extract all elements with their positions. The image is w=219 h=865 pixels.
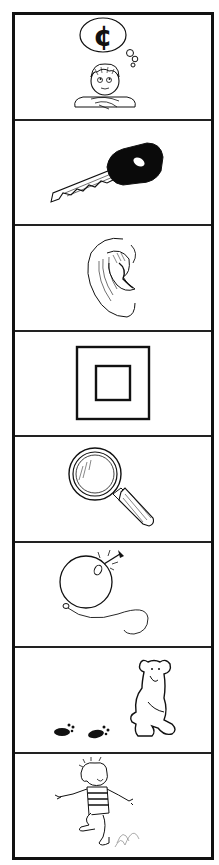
- jumping-girl-icon: [53, 757, 173, 853]
- panel-balloon: balloon with pin: [15, 541, 211, 647]
- panel-thinking-boy: boy thinking of cent ¢: [15, 15, 211, 119]
- picture-strip: boy thinking of cent ¢ key: [12, 12, 214, 860]
- balloon-pin-icon: [48, 548, 178, 640]
- key-icon: [43, 127, 183, 217]
- nested-square-icon: [75, 345, 151, 421]
- panel-magnifier: magnifying glass: [15, 435, 211, 541]
- magnifying-glass-icon: [63, 444, 163, 534]
- cent-symbol: ¢: [93, 20, 112, 53]
- panel-squares: square inside square: [15, 330, 211, 436]
- panel-ear: ear: [15, 224, 211, 330]
- ear-icon: [73, 233, 153, 323]
- bear-footprints-icon: [38, 654, 188, 746]
- panel-key: key: [15, 119, 211, 225]
- panel-jumping-girl: girl jumping: [15, 752, 211, 858]
- panel-bear: bear with footprints: [15, 646, 211, 752]
- thinking-boy-cent-icon: ¢: [53, 17, 173, 117]
